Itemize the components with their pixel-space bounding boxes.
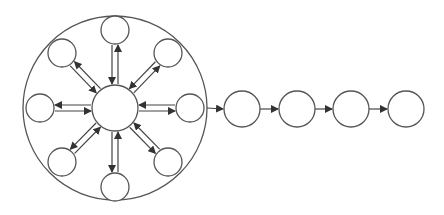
chain-node-chain-1 [224, 91, 260, 127]
satellite-node-bottom [101, 173, 129, 201]
satellite-node-top-left [48, 39, 76, 67]
chain-group [207, 91, 424, 127]
arrow-cluster-to-chain-1 [207, 108, 223, 109]
chain-node-chain-2 [279, 91, 315, 127]
diagram-canvas [0, 0, 444, 215]
satellite-node-bottom-right [154, 148, 182, 176]
satellite-node-bottom-left [48, 148, 76, 176]
satellite-node-top [101, 16, 129, 44]
satellite-node-left [26, 94, 54, 122]
chain-node-chain-3 [333, 91, 369, 127]
cluster-group [23, 16, 207, 201]
satellite-node-top-right [154, 39, 182, 67]
satellite-node-right [176, 94, 204, 122]
hub-node [92, 85, 138, 131]
chain-node-chain-4 [388, 91, 424, 127]
